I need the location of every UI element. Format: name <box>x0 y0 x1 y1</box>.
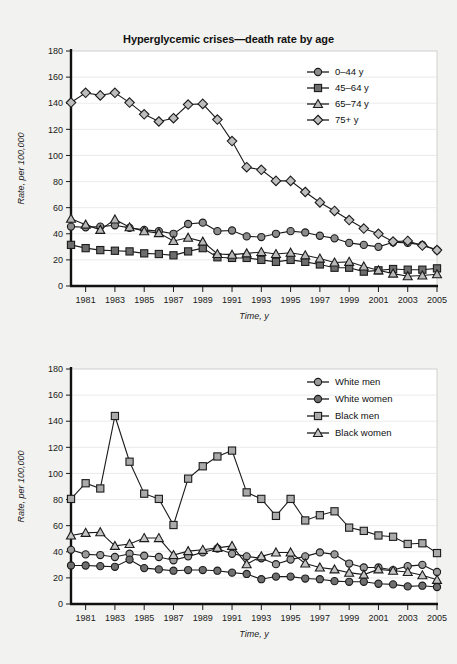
data-point <box>302 517 309 524</box>
data-point <box>316 576 323 583</box>
data-point <box>170 252 177 259</box>
data-point <box>141 564 148 571</box>
legend-label-white-men: White men <box>335 376 380 387</box>
data-point <box>141 250 148 257</box>
data-point <box>97 563 104 570</box>
y-tick-label: 80 <box>53 495 63 505</box>
data-point <box>360 241 367 248</box>
x-tick-label: 2003 <box>398 613 418 623</box>
data-point <box>272 230 279 237</box>
data-point <box>360 578 367 585</box>
y-tick-label: 120 <box>48 443 63 453</box>
y-tick-label: 20 <box>53 573 63 583</box>
y-tick-label: 20 <box>53 255 63 265</box>
data-point <box>419 582 426 589</box>
data-point <box>419 561 426 568</box>
data-point <box>82 551 89 558</box>
x-tick-label: 1995 <box>281 295 301 305</box>
data-point <box>97 485 104 492</box>
x-tick-label: 1981 <box>76 613 96 623</box>
data-point <box>67 495 74 502</box>
legend-label-black-women: Black women <box>335 427 392 438</box>
data-point <box>111 563 118 570</box>
data-point <box>185 566 192 573</box>
figure-container: Hyperglycemic crises—death rate by age 0… <box>0 0 457 664</box>
data-point <box>346 578 353 585</box>
y-tick-label: 120 <box>48 125 63 135</box>
legend-label-45-64-y: 45–64 y <box>335 82 369 93</box>
y-axis-title: Rate, per 100,000 <box>16 132 26 204</box>
data-point <box>331 551 338 558</box>
y-tick-label: 40 <box>53 229 63 239</box>
chart-svg-age: 0204060801001201401601801981198319851987… <box>0 0 457 330</box>
data-point <box>155 566 162 573</box>
data-point <box>228 569 235 576</box>
data-point <box>331 508 338 515</box>
x-tick-label: 1989 <box>193 613 213 623</box>
x-tick-label: 1991 <box>222 295 242 305</box>
data-point <box>389 533 396 540</box>
data-point <box>346 524 353 531</box>
data-point <box>375 243 382 250</box>
data-point <box>316 232 323 239</box>
x-tick-label: 1987 <box>163 613 183 623</box>
x-tick-label: 1997 <box>310 295 330 305</box>
data-point <box>67 223 74 230</box>
x-tick-label: 1999 <box>339 613 359 623</box>
data-point <box>302 575 309 582</box>
y-tick-label: 80 <box>53 177 63 187</box>
x-tick-label: 1983 <box>105 295 125 305</box>
legend-glyph-black-men-marker <box>314 412 321 419</box>
x-tick-label: 1981 <box>76 295 96 305</box>
x-tick-label: 2003 <box>398 295 418 305</box>
data-point <box>185 248 192 255</box>
data-point <box>111 247 118 254</box>
data-point <box>67 546 74 553</box>
legend-label-white-women: White women <box>335 393 393 404</box>
x-tick-label: 2001 <box>368 613 388 623</box>
chart-svg-race-gender: 0204060801001201401601801981198319851987… <box>0 330 457 664</box>
data-point <box>111 412 118 419</box>
data-point <box>126 458 133 465</box>
x-tick-label: 1997 <box>310 613 330 623</box>
data-point <box>82 480 89 487</box>
data-point <box>389 581 396 588</box>
data-point <box>258 495 265 502</box>
x-tick-label: 2001 <box>368 295 388 305</box>
data-point <box>258 576 265 583</box>
x-tick-label: 2005 <box>427 613 447 623</box>
data-point <box>141 490 148 497</box>
data-point <box>375 532 382 539</box>
y-axis-title: Rate, per 100,000 <box>16 450 26 522</box>
x-tick-label: 2005 <box>427 295 447 305</box>
x-tick-label: 1991 <box>222 613 242 623</box>
legend-glyph-0-44-y-marker <box>314 68 321 75</box>
y-tick-label: 100 <box>48 469 63 479</box>
y-tick-label: 160 <box>48 390 63 400</box>
data-point <box>302 229 309 236</box>
data-point <box>82 562 89 569</box>
data-point <box>316 549 323 556</box>
chart-panel-race-gender: Hyperglycemic crises— age-adjusted death… <box>0 330 457 664</box>
data-point <box>67 241 74 248</box>
data-point <box>287 228 294 235</box>
x-axis-title: Time, y <box>239 629 269 639</box>
legend-glyph-white-men-marker <box>314 378 321 385</box>
y-tick-label: 0 <box>58 281 63 291</box>
data-point <box>287 556 294 563</box>
data-point <box>346 239 353 246</box>
x-tick-label: 1989 <box>193 295 213 305</box>
data-point <box>185 220 192 227</box>
x-tick-label: 1985 <box>134 295 154 305</box>
data-point <box>404 583 411 590</box>
data-point <box>243 233 250 240</box>
data-point <box>126 556 133 563</box>
data-point <box>111 553 118 560</box>
legend-label-65-74-y: 65–74 y <box>335 98 369 109</box>
x-tick-label: 1987 <box>163 295 183 305</box>
data-point <box>243 570 250 577</box>
data-point <box>258 256 265 263</box>
data-point <box>97 246 104 253</box>
data-point <box>287 495 294 502</box>
data-point <box>228 447 235 454</box>
